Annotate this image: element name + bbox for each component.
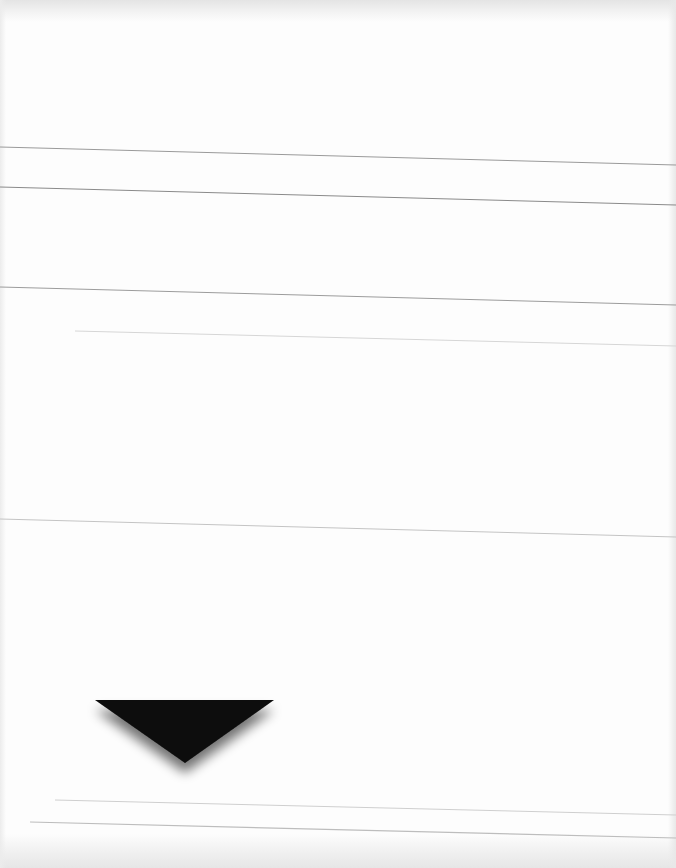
down-triangle-icon bbox=[0, 0, 676, 868]
scanned-page bbox=[0, 0, 676, 868]
triangle-marker bbox=[95, 700, 274, 763]
